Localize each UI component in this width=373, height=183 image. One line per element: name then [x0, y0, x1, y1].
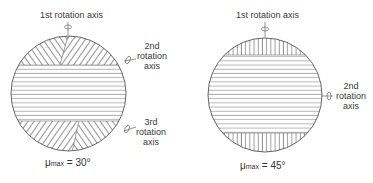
rotation-arrow-icon [322, 92, 333, 100]
second-rotation-axis-label: 2nd rotation axis [135, 41, 169, 71]
label-line: axis [134, 137, 168, 147]
mu-value: = 45° [262, 160, 286, 171]
top-cap-right-hatch [60, 36, 130, 65]
label-line: 2nd [334, 81, 368, 91]
label-line: 3rd [134, 117, 168, 127]
second-rotation-axis-label: 2nd rotation axis [334, 81, 368, 111]
label-line: 2nd [135, 41, 169, 51]
mu-subscript: max [246, 163, 259, 170]
left-sphere [10, 36, 130, 152]
mu-max-left: μmax = 30° [45, 157, 91, 168]
top-cap-vertical-hatch [205, 36, 325, 55]
label-line: rotation [334, 91, 368, 101]
top-cap-left-hatch [10, 36, 68, 65]
first-rotation-axis-label: 1st rotation axis [40, 10, 103, 20]
mu-max-right: μmax = 45° [240, 160, 286, 171]
label-line: axis [135, 61, 169, 71]
third-rotation-axis-label: 3rd rotation axis [134, 117, 168, 147]
diagram-canvas [0, 0, 373, 183]
mu-value: = 30° [67, 157, 91, 168]
rotation-arrow-icon [65, 22, 72, 35]
label-line: rotation [134, 127, 168, 137]
mu-subscript: max [51, 160, 64, 167]
label-line: rotation [135, 51, 169, 61]
middle-horizontal-hatch [205, 55, 325, 133]
middle-horizontal-hatch [10, 65, 130, 121]
bottom-cap-right-hatch [72, 121, 130, 152]
rotation-arrow-icon [262, 22, 269, 37]
first-rotation-axis-label: 1st rotation axis [236, 10, 299, 20]
label-line: axis [334, 101, 368, 111]
right-sphere [205, 36, 325, 155]
